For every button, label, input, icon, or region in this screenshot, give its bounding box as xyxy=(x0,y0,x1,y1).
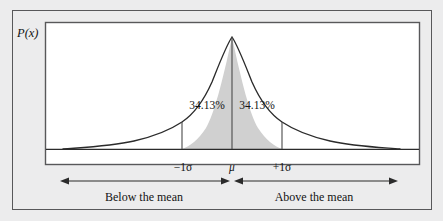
x-tick-label-plus-one-sigma: +1σ xyxy=(264,162,300,174)
below-the-mean-arrow xyxy=(60,178,230,185)
caption-below-the-mean: Below the mean xyxy=(60,191,228,203)
x-tick-label-mu: μ xyxy=(214,162,250,174)
caption-above-the-mean: Above the mean xyxy=(230,191,398,203)
left-region-percent-label: 34.13% xyxy=(182,100,232,112)
above-the-mean-arrow xyxy=(234,178,398,185)
right-region-percent-label: 34.13% xyxy=(232,100,282,112)
x-tick-label-minus-one-sigma: −1σ xyxy=(165,162,201,174)
y-axis-label: P(x) xyxy=(17,27,39,40)
normal-distribution-figure: P(x) −1σ μ +1σ 34.13% 34.13% Below the m… xyxy=(0,0,443,221)
